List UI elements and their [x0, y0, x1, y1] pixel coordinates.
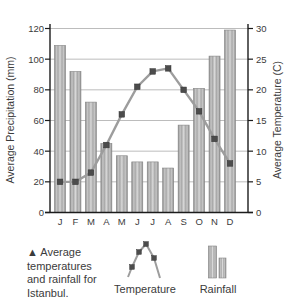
axis-text: J	[58, 216, 63, 227]
axis-text: M	[87, 216, 95, 227]
temperature-marker	[88, 170, 94, 176]
axis-text: 0	[39, 207, 44, 218]
axis-text: 20	[256, 84, 267, 95]
temperature-marker	[150, 69, 156, 75]
temperature-marker	[181, 87, 187, 93]
temperature-marker	[134, 84, 140, 90]
axis-text: J	[135, 216, 140, 227]
temperature-marker	[212, 136, 218, 142]
axis-text: F	[73, 216, 79, 227]
axis-text: 15	[256, 115, 267, 126]
axis-text: 40	[33, 146, 44, 157]
temperature-marker	[104, 142, 110, 148]
legend-rainfall-label: Rainfall	[200, 283, 237, 295]
temperature-marker	[227, 161, 233, 167]
temperature-line-icon	[126, 239, 164, 280]
rainfall-bars-icon	[208, 239, 228, 280]
axis-text: M	[118, 216, 126, 227]
axis-text: 0	[256, 207, 261, 218]
legend-temperature: Temperature	[108, 239, 182, 295]
legend-rainfall: Rainfall	[193, 239, 243, 295]
axis-text: D	[227, 216, 234, 227]
rainfall-bar	[85, 102, 96, 212]
rainfall-bar	[225, 30, 236, 212]
axis-text: 100	[28, 54, 44, 65]
axis-text: 120	[28, 23, 44, 34]
axis-text: A	[103, 216, 110, 227]
temperature-marker	[196, 109, 202, 115]
climograph-chart: 020406080100120051015202530JFMAMJJASONDA…	[0, 0, 296, 240]
rainfall-bar	[163, 168, 174, 212]
axis-text: 10	[256, 146, 267, 157]
axis-text: S	[180, 216, 186, 227]
rainfall-bar	[132, 162, 143, 213]
climate-figure: 020406080100120051015202530JFMAMJJASONDA…	[0, 0, 296, 308]
temperature-marker	[73, 179, 79, 185]
axis-text: O	[195, 216, 202, 227]
axis-text: J	[150, 216, 155, 227]
axis-text: Average Temperature (C)	[271, 61, 283, 179]
axis-text: N	[211, 216, 218, 227]
axis-text: 80	[33, 84, 44, 95]
rainfall-bar	[55, 45, 66, 212]
rainfall-bar	[70, 71, 81, 212]
axis-text: Average Precipitation (mm)	[4, 56, 16, 183]
legend-temperature-label: Temperature	[114, 283, 176, 295]
temperature-marker	[57, 179, 63, 185]
rainfall-bar	[147, 162, 158, 213]
axis-text: 5	[256, 176, 261, 187]
axis-text: 25	[256, 54, 267, 65]
axis-text: A	[165, 216, 172, 227]
temperature-marker	[165, 66, 171, 72]
figure-caption: ▲ Average temperatures and rainfall for …	[27, 246, 113, 300]
temperature-marker	[119, 112, 125, 118]
axis-text: 30	[256, 23, 267, 34]
axis-text: 60	[33, 115, 44, 126]
axis-text: 20	[33, 176, 44, 187]
rainfall-bar	[178, 125, 189, 212]
rainfall-bar	[116, 156, 127, 213]
